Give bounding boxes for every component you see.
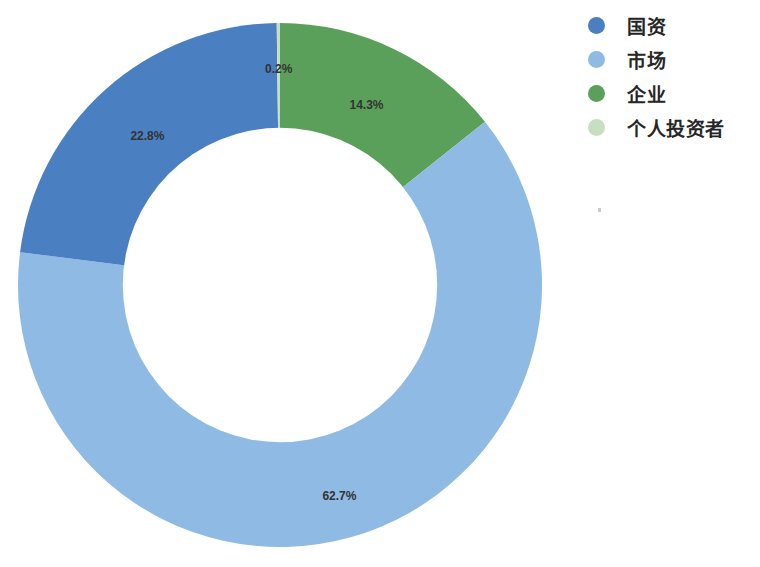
slice-label-qiye: 14.3% [349, 98, 383, 112]
legend-label-shichang: 市场 [627, 46, 666, 73]
legend-item-shichang[interactable]: 市场 [588, 42, 758, 76]
chart-page: 0.2% 14.3% 22.8% 62.7% 国资 市场 企业 个人投资者 [0, 0, 760, 567]
legend-item-guozi[interactable]: 国资 [588, 8, 758, 42]
legend-item-geren[interactable]: 个人投资者 [588, 110, 758, 144]
donut-hole [123, 128, 437, 442]
slice-label-guozi: 22.8% [130, 129, 164, 143]
legend-swatch-icon [588, 85, 605, 102]
chart-legend: 国资 市场 企业 个人投资者 [588, 8, 758, 144]
slice-label-geren: 0.2% [265, 62, 293, 76]
legend-swatch-icon [588, 51, 605, 68]
legend-swatch-icon [588, 119, 605, 136]
scan-artifact [598, 208, 601, 212]
legend-label-geren: 个人投资者 [627, 114, 725, 141]
donut-chart-svg: 0.2% 14.3% 22.8% 62.7% [0, 0, 570, 567]
legend-swatch-icon [588, 17, 605, 34]
donut-chart: 0.2% 14.3% 22.8% 62.7% [0, 0, 570, 567]
legend-item-qiye[interactable]: 企业 [588, 76, 758, 110]
slice-label-shichang: 62.7% [322, 489, 356, 503]
legend-label-guozi: 国资 [627, 12, 666, 39]
legend-label-qiye: 企业 [627, 80, 666, 107]
